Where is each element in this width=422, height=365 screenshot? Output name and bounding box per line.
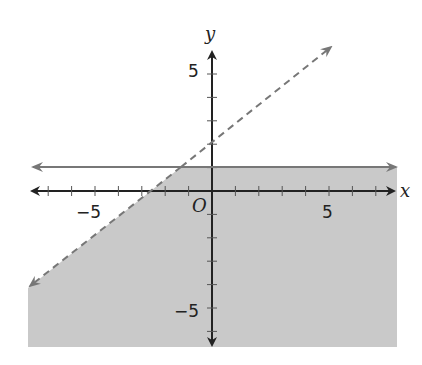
y-tick-label-pos5: 5: [188, 61, 199, 81]
x-tick-label-pos5: 5: [322, 202, 333, 222]
y-axis-label: y: [204, 23, 216, 44]
coordinate-plane: x y O −5 5 5 −5: [0, 0, 422, 365]
origin-label: O: [192, 195, 207, 216]
x-axis-label: x: [400, 180, 410, 201]
y-tick-label-neg5: −5: [174, 301, 199, 321]
x-tick-label-neg5: −5: [76, 202, 101, 222]
